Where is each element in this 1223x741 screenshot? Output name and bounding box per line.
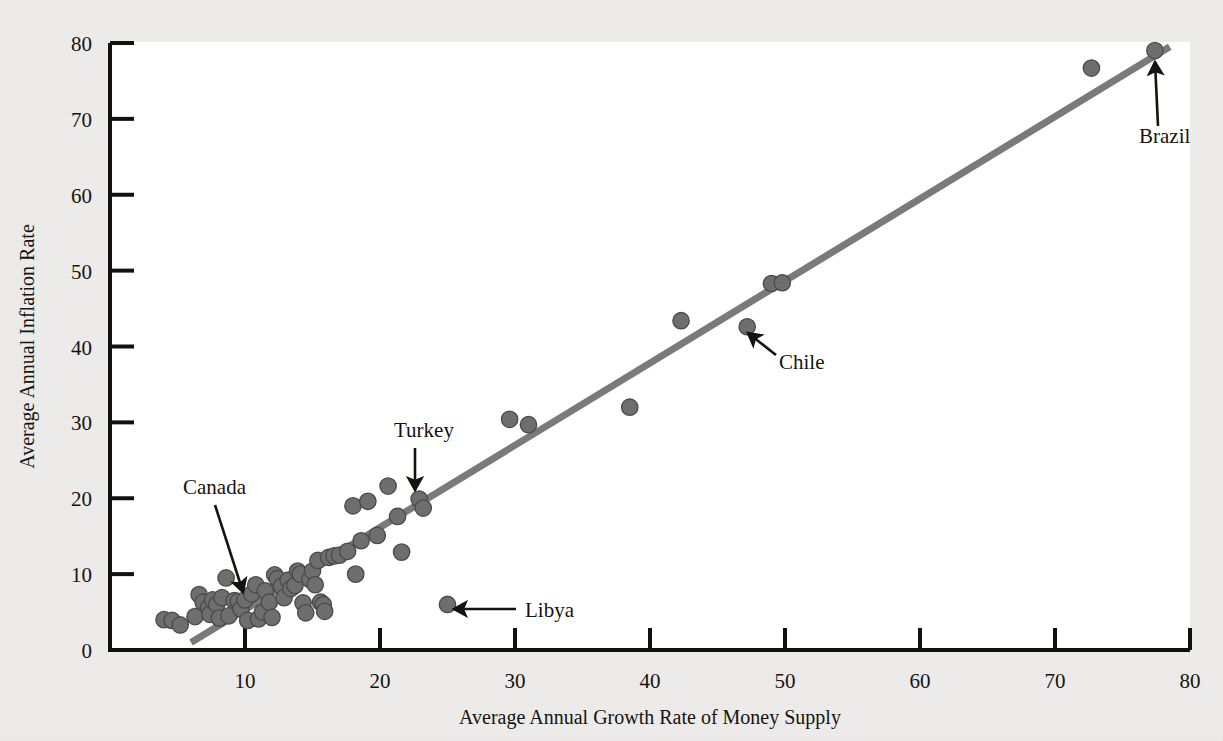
- data-point[interactable]: [1147, 42, 1163, 58]
- x-axis-tick-label: 10: [235, 669, 256, 693]
- data-point[interactable]: [348, 566, 364, 582]
- data-point[interactable]: [415, 500, 431, 516]
- x-axis-tick-label: 50: [775, 669, 796, 693]
- x-axis-tick-label: 30: [505, 669, 526, 693]
- data-point[interactable]: [501, 411, 517, 427]
- annotation-label-chile: Chile: [779, 350, 825, 374]
- data-point[interactable]: [353, 533, 369, 549]
- y-axis-tick-label: 60: [71, 184, 92, 208]
- y-axis-tick-label: 70: [71, 108, 92, 132]
- x-axis-tick-label: 70: [1045, 669, 1066, 693]
- plot-svg: 010203040506070801020304050607080Average…: [0, 0, 1223, 741]
- data-point[interactable]: [393, 544, 409, 560]
- data-point[interactable]: [298, 605, 314, 621]
- annotation-label-libya: Libya: [525, 598, 575, 622]
- data-point[interactable]: [218, 570, 234, 586]
- data-point[interactable]: [439, 596, 455, 612]
- y-axis-tick-label: 40: [71, 336, 92, 360]
- y-axis-title: Average Annual Inflation Rate: [16, 224, 39, 469]
- y-axis-tick-label: 20: [71, 487, 92, 511]
- data-point[interactable]: [261, 594, 277, 610]
- x-axis-tick-label: 20: [370, 669, 391, 693]
- data-point[interactable]: [345, 498, 361, 514]
- data-point[interactable]: [389, 508, 405, 524]
- data-point[interactable]: [172, 617, 188, 633]
- annotation-label-brazil: Brazil: [1139, 124, 1190, 148]
- x-axis-tick-label: 80: [1180, 669, 1201, 693]
- data-point[interactable]: [380, 478, 396, 494]
- data-point[interactable]: [264, 609, 280, 625]
- x-axis-tick-label: 40: [640, 669, 661, 693]
- y-axis-tick-label: 80: [71, 32, 92, 56]
- data-point[interactable]: [369, 527, 385, 543]
- data-point[interactable]: [739, 319, 755, 335]
- data-point[interactable]: [339, 543, 355, 559]
- annotation-label-turkey: Turkey: [394, 418, 454, 442]
- y-axis-tick-label: 50: [71, 260, 92, 284]
- data-point[interactable]: [774, 275, 790, 291]
- y-axis-tick-label: 30: [71, 411, 92, 435]
- data-point[interactable]: [360, 493, 376, 509]
- data-point[interactable]: [307, 577, 323, 593]
- x-axis-tick-label: 60: [910, 669, 931, 693]
- annotation-label-canada: Canada: [183, 475, 247, 499]
- scatter-chart: 010203040506070801020304050607080Average…: [0, 0, 1223, 741]
- x-axis-title: Average Annual Growth Rate of Money Supp…: [459, 706, 841, 729]
- y-axis-tick-label: 10: [71, 563, 92, 587]
- data-point[interactable]: [673, 313, 689, 329]
- data-point[interactable]: [520, 416, 536, 432]
- data-point[interactable]: [316, 603, 332, 619]
- data-point[interactable]: [622, 399, 638, 415]
- y-axis-tick-label: 0: [82, 639, 93, 663]
- data-point[interactable]: [1083, 60, 1099, 76]
